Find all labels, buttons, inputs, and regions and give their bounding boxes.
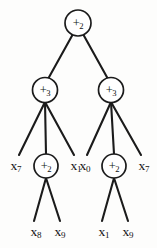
leaf-label-leaf-x9-left: x9 <box>55 224 66 240</box>
tree-edge <box>45 102 74 155</box>
leaf-subscript: 1 <box>105 230 110 240</box>
leaf-subscript: 9 <box>61 230 66 240</box>
tree-edge <box>111 102 141 155</box>
leaf-label-leaf-x7-right: x7 <box>139 158 150 174</box>
leaf-subscript: 0 <box>86 164 91 174</box>
tree-graphics <box>0 0 157 248</box>
operator-label-left-low: +2 <box>41 159 51 174</box>
leaf-subscript: 7 <box>17 164 22 174</box>
tree-edge <box>45 102 46 154</box>
tree-edge <box>111 102 114 154</box>
expression-tree-figure: +2+3+3+2+2x7x1x0x7x8x9x1x9 <box>0 0 157 248</box>
tree-edge <box>48 34 73 79</box>
operator-label-right-mid: +3 <box>106 83 116 98</box>
operator-subscript: 2 <box>79 20 83 30</box>
tree-edge <box>102 178 114 221</box>
leaf-subscript: 8 <box>37 230 42 240</box>
tree-edge <box>34 178 46 221</box>
leaf-label-leaf-x1-bot: x1 <box>99 224 110 240</box>
tree-edge <box>19 102 45 155</box>
leaf-label-leaf-x8: x8 <box>31 224 42 240</box>
tree-edge <box>114 178 128 221</box>
operator-subscript: 3 <box>46 87 50 97</box>
operator-subscript: 2 <box>47 163 51 173</box>
leaf-label-leaf-x7-left: x7 <box>11 158 22 174</box>
leaf-subscript: 9 <box>129 230 134 240</box>
operator-subscript: 3 <box>112 87 116 97</box>
operator-label-left-mid: +3 <box>40 83 50 98</box>
tree-edge <box>83 34 108 79</box>
leaf-label-leaf-x0-right: x0 <box>80 158 91 174</box>
edge-layer <box>19 34 141 221</box>
leaf-subscript: 7 <box>145 164 150 174</box>
operator-subscript: 2 <box>115 163 119 173</box>
tree-edge <box>46 178 60 221</box>
operator-label-root: +2 <box>73 16 83 31</box>
operator-label-right-low: +2 <box>109 159 119 174</box>
leaf-label-leaf-x9-right: x9 <box>123 224 134 240</box>
tree-edge <box>87 102 111 155</box>
